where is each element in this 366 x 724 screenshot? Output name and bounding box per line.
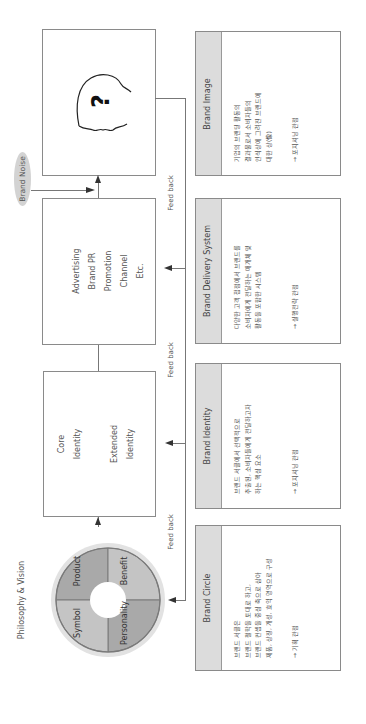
circle-segment-product: Product [72,551,84,591]
core-label: Identity [72,414,84,474]
feedback-branch-circle [176,600,185,601]
identity-box: Core Identity Extended Identity [43,371,156,517]
noise-connector [31,190,89,191]
feedback-label: Feed back [166,335,176,385]
card-brand-identity: Brand Identity 브랜드 서클에서 선택적으로 추출된, 소비자들에… [195,363,341,509]
philosophy-vision-label: Philosophy & Vision [16,558,28,642]
delivery-line: Brand PR [87,231,99,311]
feedback-arrow-icon [168,597,176,603]
delivery-line: Channel [119,231,131,311]
feedback-branch-delivery [170,268,185,269]
delivery-line: Etc. [135,231,147,311]
card-brand-delivery-system: Brand Delivery System 다양한 고객 접점에서 브랜드를 소… [195,198,341,344]
card-body: 브랜드 서클에서 선택적으로 추출된, 소비자들에게 전달하고자 하는 핵심 요… [232,404,300,494]
card-title: Brand Circle [202,531,214,665]
card-brand-image: Brand Image 기업의 브랜딩 활동의 결과물로서 소비자들의 인식상에… [195,31,341,176]
extended-label: Identity [125,414,137,474]
card-title: Brand Identity [202,369,214,503]
core-label: Core [56,414,68,474]
card-body: 브랜드 서클은 브랜드 철학을 토대로 하고, 브랜드 컨셉을 중심 축으로 삼… [232,558,301,658]
svg-text:?: ? [87,94,115,108]
delivery-box: Advertising Brand PR Promotion Channel E… [42,198,156,345]
circle-segment-personality: Personality [119,598,131,648]
arrow-up-icon [95,175,101,183]
arrow-up-icon [95,517,101,525]
brand-noise-label: Brand Noise [18,151,28,207]
head-question-icon: ? [71,66,141,136]
feedback-label: Feed back [166,507,176,557]
card-title: Brand Delivery System [202,204,214,338]
feedback-arrow-icon [164,265,172,271]
delivery-line: Promotion [103,231,115,311]
circle-segment-benefit: Benefit [119,551,131,591]
feedback-branch-identity [172,443,185,444]
feedback-label: Feed back [166,168,176,218]
feedback-line-top [155,98,185,99]
feedback-arrow-icon [165,440,173,446]
feedback-line-vertical [185,98,186,601]
extended-label: Extended [109,414,121,474]
card-title: Brand Image [202,37,214,171]
card-brand-circle: Brand Circle 브랜드 서클은 브랜드 철학을 토대로 하고, 브랜드… [195,525,341,671]
card-body: 다양한 고객 접점에서 브랜드를 소비자에게 전달하는 매개체 및 활동을 포함… [232,245,300,329]
circle-segment-symbol: Symbol [72,603,84,643]
brand-image-box: ? [42,29,156,176]
noise-arrow-icon [86,187,95,193]
delivery-line: Advertising [71,231,83,311]
card-body: 기업의 브랜딩 활동의 결과물로서 소비자들의 인식상에 그려진 브랜드에 대한… [232,92,301,162]
brand-circle-diagram [50,542,166,658]
